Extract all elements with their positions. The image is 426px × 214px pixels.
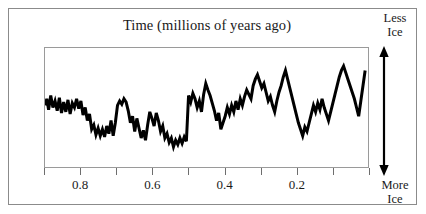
ice-volume-polyline [45,66,365,147]
chart-title: Time (millions of years ago) [44,16,370,34]
less-ice-label: Less Ice [372,11,418,39]
x-tick-major-0.2 [297,168,298,175]
more-ice-line-2: Ice [372,192,418,206]
less-ice-line-2: Ice [372,25,418,39]
x-axis-ticks [44,168,370,176]
x-tick-minor-0.5 [188,168,189,175]
less-ice-line-1: Less [372,11,418,25]
more-ice-label: More Ice [372,178,418,206]
ice-axis-double-arrow-icon [377,46,391,176]
x-axis-labels: 0.80.60.40.2 [44,177,370,195]
x-tick-major-0.6 [152,168,153,175]
x-tick-major-0.8 [80,168,81,175]
x-axis-label-0.8: 0.8 [72,177,88,193]
x-axis-label-0.2: 0.2 [289,177,305,193]
plot-area [44,47,369,168]
x-tick-minor-0.7 [116,168,117,175]
x-tick-minor-0.9 [44,168,45,175]
ice-volume-figure: Time (millions of years ago) 0.80.60.40.… [0,0,426,214]
x-axis-label-0.6: 0.6 [144,177,160,193]
x-tick-minor-0 [369,168,370,175]
ice-volume-curve [45,48,368,167]
x-tick-minor-0.3 [261,168,262,175]
more-ice-line-1: More [372,178,418,192]
x-tick-major-0.4 [225,168,226,175]
x-axis-label-0.4: 0.4 [216,177,232,193]
x-tick-minor-0.1 [333,168,334,175]
